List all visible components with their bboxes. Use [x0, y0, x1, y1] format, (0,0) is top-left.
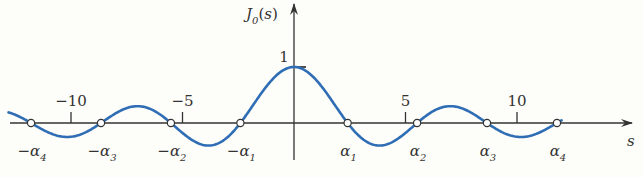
zero-marker — [237, 119, 244, 126]
zero-label: α4 — [550, 142, 567, 163]
zero-marker — [483, 119, 490, 126]
y-tick-label: 1 — [279, 48, 289, 66]
bessel-chart: −10−5510 1 −α4−α3−α2−α1α1α2α3α4 J0(s) s — [0, 0, 643, 177]
zero-label-base: α — [340, 142, 350, 160]
zero-label-base: −α — [227, 142, 250, 160]
y-label-arg-close: ) — [272, 5, 278, 23]
zero-label: −α2 — [157, 142, 186, 163]
x-axis-label: s — [627, 132, 635, 150]
zero-marker — [27, 119, 34, 126]
zero-marker — [97, 119, 104, 126]
zero-marker — [344, 119, 351, 126]
zero-label-sub: 3 — [490, 152, 496, 163]
zero-label-sub: 4 — [39, 152, 46, 163]
zero-label-sub: 3 — [110, 152, 116, 163]
zero-labels: −α4−α3−α2−α1α1α2α3α4 — [17, 142, 566, 163]
zero-label-sub: 2 — [179, 152, 186, 163]
x-tick-label: 10 — [507, 92, 526, 110]
zero-label: −α1 — [227, 142, 256, 163]
zero-label-sub: 2 — [419, 152, 426, 163]
zero-label-sub: 1 — [250, 152, 256, 163]
zero-label: α1 — [340, 142, 357, 163]
zero-label-sub: 1 — [351, 152, 357, 163]
y-axis-label: J0(s) — [243, 5, 278, 26]
y-ticks: 1 — [279, 48, 306, 67]
zero-marker — [413, 119, 420, 126]
zero-marker — [167, 119, 174, 126]
x-tick-label: −10 — [55, 92, 87, 110]
zero-label-base: −α — [17, 142, 40, 160]
zero-marker — [553, 119, 560, 126]
zero-label-base: α — [550, 142, 560, 160]
zero-label: α2 — [410, 142, 427, 163]
zero-label-base: α — [480, 142, 490, 160]
zero-label-base: α — [410, 142, 420, 160]
series-line-j0 — [9, 67, 562, 146]
zero-label-base: −α — [157, 142, 180, 160]
zero-label: −α4 — [17, 142, 46, 163]
zero-label: α3 — [480, 142, 497, 163]
zero-label: −α3 — [87, 142, 116, 163]
x-tick-label: 5 — [401, 92, 411, 110]
zero-label-sub: 4 — [559, 152, 566, 163]
x-tick-label: −5 — [171, 92, 193, 110]
zero-label-base: −α — [87, 142, 110, 160]
